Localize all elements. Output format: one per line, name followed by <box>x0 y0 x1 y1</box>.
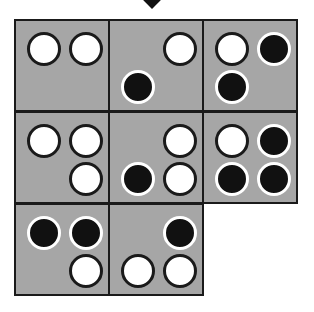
white-circle-icon <box>215 124 249 158</box>
white-circle-icon <box>121 254 155 288</box>
black-circle-icon <box>27 216 61 250</box>
black-circle-icon <box>163 216 197 250</box>
grid-cell-r1-c0 <box>14 111 110 204</box>
white-circle-icon <box>27 124 61 158</box>
black-circle-icon <box>215 70 249 104</box>
grid-cell-r1-c1 <box>108 111 204 204</box>
black-circle-icon <box>69 216 103 250</box>
grid-cell-r2-c1 <box>108 203 204 296</box>
black-circle-icon <box>257 124 291 158</box>
white-circle-icon <box>69 32 103 66</box>
black-circle-icon <box>121 70 155 104</box>
grid-cell-r0-c1 <box>108 19 204 112</box>
white-circle-icon <box>163 124 197 158</box>
grid-cell-r2-c0 <box>14 203 110 296</box>
black-circle-icon <box>257 32 291 66</box>
white-circle-icon <box>163 32 197 66</box>
white-circle-icon <box>27 32 61 66</box>
grid-cell-r0-c0 <box>14 19 110 112</box>
white-circle-icon <box>215 32 249 66</box>
white-circle-icon <box>69 162 103 196</box>
white-circle-icon <box>69 124 103 158</box>
white-circle-icon <box>163 254 197 288</box>
black-circle-icon <box>121 162 155 196</box>
grid-cell-r0-c2 <box>202 19 298 112</box>
white-circle-icon <box>163 162 197 196</box>
grid-cell-r1-c2 <box>202 111 298 204</box>
down-arrow-icon <box>142 0 162 9</box>
black-circle-icon <box>215 162 249 196</box>
black-circle-icon <box>257 162 291 196</box>
white-circle-icon <box>69 254 103 288</box>
